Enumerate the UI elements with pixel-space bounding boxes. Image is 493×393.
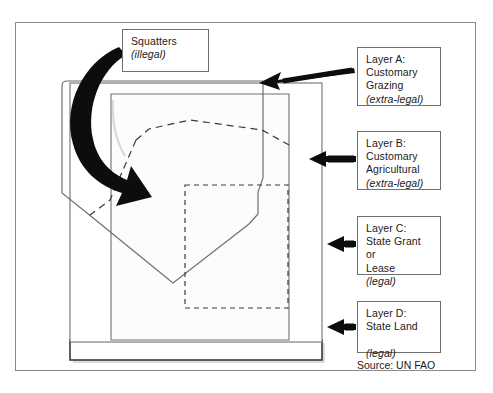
callout-layer-b-line3: Agricultural: [366, 163, 433, 176]
layer-c-pointer-arrow: [327, 236, 356, 252]
callout-layer-b[interactable]: Layer B: Customary Agricultural (extra-l…: [357, 131, 441, 190]
callout-layer-b-line2: Customary: [366, 150, 433, 163]
layer-d-pointer-arrow: [327, 319, 356, 335]
callout-layer-a-line3: Grazing: [366, 79, 433, 92]
callout-layer-b-status: (extra-legal): [366, 177, 433, 190]
callout-layer-a[interactable]: Layer A: Customary Grazing (extra-legal): [357, 47, 441, 106]
layer-d-state-land-region: [70, 340, 325, 363]
callout-layer-d-status: (legal): [366, 347, 433, 360]
callout-layer-d[interactable]: Layer D: State Land (legal): [357, 301, 441, 353]
diagram-page: Squatters (illegal) Layer A: Customary G…: [0, 0, 493, 393]
callout-layer-c-line1: Layer C:: [366, 222, 433, 235]
callout-layer-b-line1: Layer B:: [366, 137, 433, 150]
callout-squatters[interactable]: Squatters (illegal): [122, 29, 209, 72]
callout-layer-d-spacer: [366, 333, 433, 346]
callout-layer-c-line3: Lease: [366, 262, 433, 275]
callout-layer-c-line2: State Grant or: [366, 235, 433, 261]
source-note: Source: UN FAO: [357, 359, 435, 371]
callout-squatters-label: Squatters: [131, 35, 201, 48]
callout-squatters-status: (illegal): [131, 48, 201, 61]
callout-layer-a-line1: Layer A:: [366, 53, 433, 66]
callout-layer-c-status: (legal): [366, 275, 433, 288]
callout-layer-a-status: (extra-legal): [366, 93, 433, 106]
callout-layer-d-line1: Layer D:: [366, 307, 433, 320]
callout-layer-a-line2: Customary: [366, 66, 433, 79]
callout-layer-d-line2: State Land: [366, 320, 433, 333]
layer-b-customary-agricultural-region: [111, 94, 289, 340]
callout-layer-c[interactable]: Layer C: State Grant or Lease (legal): [357, 216, 441, 275]
